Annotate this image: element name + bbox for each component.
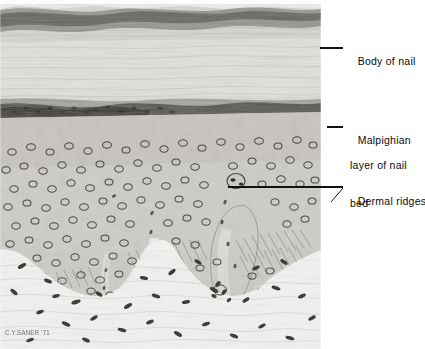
label-body-of-nail: Body of nail <box>345 42 416 80</box>
label-malpighian-line2: layer of nail <box>345 159 411 172</box>
photomicrograph-plate: C.Y.SANER '71 <box>0 0 321 349</box>
label-body-of-nail-line1: Body of nail <box>358 55 416 67</box>
label-dermal-ridges: Dermal ridges <box>345 182 425 220</box>
artist-signature: C.Y.SANER '71 <box>5 330 50 336</box>
figure-nail-bed-histology: C.Y.SANER '71 Body of nail Malpighian la… <box>0 0 425 349</box>
label-malpighian-line1: Malpighian <box>358 134 411 146</box>
label-dermal-ridges-line1: Dermal ridges <box>358 195 425 207</box>
micrograph-svg <box>0 0 321 349</box>
leader-dermal-ridges-tick <box>331 188 343 202</box>
